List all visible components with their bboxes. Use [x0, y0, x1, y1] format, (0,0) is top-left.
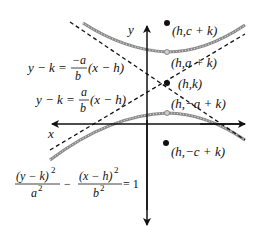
hyperbola-standard-equation: (y − k) 2 a 2 − (x − h) 2 b 2 = 1	[15, 165, 139, 200]
focus-bottom-point	[163, 140, 169, 146]
svg-text:2: 2	[38, 183, 43, 193]
vertex-top-point	[165, 50, 170, 55]
svg-text:(y − k): (y − k)	[16, 169, 49, 183]
center-label: (h,k)	[178, 76, 202, 91]
vertex-top-label: (h,a + k)	[171, 55, 217, 70]
svg-text:(x − h): (x − h)	[90, 92, 126, 107]
svg-text:(x − h): (x − h)	[88, 60, 124, 75]
svg-text:a: a	[81, 85, 87, 99]
svg-text:a: a	[31, 186, 37, 200]
vertex-bottom-point	[165, 111, 170, 116]
x-axis-label: x	[47, 126, 54, 141]
center-point	[164, 80, 170, 86]
asymptote-negative-equation: y − k = −a b (x − h)	[26, 53, 124, 83]
y-axis-label: y	[126, 22, 134, 37]
svg-text:−a: −a	[72, 53, 86, 67]
svg-text:2: 2	[114, 165, 119, 175]
svg-text:−: −	[64, 177, 71, 191]
svg-text:b: b	[75, 69, 81, 83]
svg-text:2: 2	[51, 165, 56, 175]
focus-top-label: (h,c + k)	[172, 23, 217, 38]
svg-text:y − k =: y − k =	[34, 92, 75, 107]
svg-text:y − k =: y − k =	[26, 60, 67, 75]
focus-top-point	[164, 20, 170, 26]
svg-text:(x − h): (x − h)	[79, 169, 112, 183]
asymptote-positive-equation: y − k = a b (x − h)	[34, 85, 126, 115]
focus-bottom-label: (h,−c + k)	[171, 144, 225, 159]
hyperbola-diagram: x y (h,c + k) (h,a + k) (h,k) (h,−a + k)…	[0, 0, 262, 230]
svg-text:b: b	[93, 186, 99, 200]
vertex-bottom-label: (h,−a + k)	[171, 96, 226, 111]
svg-text:b: b	[80, 101, 86, 115]
svg-text:= 1: = 1	[123, 177, 139, 191]
svg-text:2: 2	[100, 183, 105, 193]
